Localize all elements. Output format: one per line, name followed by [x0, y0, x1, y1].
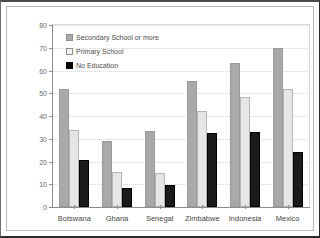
bar-ghana-none — [122, 188, 132, 207]
bar-mexico-none — [293, 152, 303, 207]
plot-area: 01020304050607080 BotswanaGhanaSenegalZi… — [52, 24, 310, 208]
legend-item-primary: Primary School — [66, 46, 159, 57]
bar-ghana-primary — [112, 172, 122, 207]
bar-senegal-secondary — [145, 131, 155, 207]
bar-senegal-primary — [155, 173, 165, 207]
y-axis-tick-mark — [49, 139, 52, 140]
y-axis-tick-label: 0 — [43, 204, 47, 211]
gridline-50 — [53, 93, 310, 94]
y-axis-tick-mark — [49, 116, 52, 117]
legend-label-primary: Primary School — [76, 48, 123, 55]
x-axis-label-ghana: Ghana — [106, 215, 129, 223]
bar-botswana-primary — [69, 130, 79, 207]
y-axis-tick-label: 20 — [39, 158, 47, 165]
bar-zimbabwe-secondary — [187, 81, 197, 207]
bar-botswana-secondary — [59, 89, 69, 207]
legend-swatch-no-education-icon — [66, 62, 73, 69]
bar-indonesia-none — [250, 132, 260, 207]
bar-ghana-secondary — [102, 141, 112, 207]
y-axis-tick-label: 40 — [39, 113, 47, 120]
x-axis-label-mexico: Mexico — [276, 215, 300, 223]
x-axis-tick-mark — [245, 205, 246, 209]
y-axis-tick-label: 10 — [39, 181, 47, 188]
y-axis-tick-label: 80 — [39, 22, 47, 29]
bar-zimbabwe-primary — [197, 111, 207, 207]
x-axis-tick-mark — [117, 205, 118, 209]
bar-indonesia-primary — [240, 97, 250, 207]
chart-figure: 01020304050607080 BotswanaGhanaSenegalZi… — [0, 0, 320, 238]
y-axis-tick-mark — [49, 71, 52, 72]
legend-label-secondary: Secondary School or more — [76, 34, 159, 41]
bar-botswana-none — [79, 160, 89, 207]
gridline-0 — [53, 207, 310, 208]
gridline-40 — [53, 116, 310, 117]
y-axis-tick-label: 30 — [39, 135, 47, 142]
legend-item-no-education: No Education — [66, 60, 159, 71]
legend-item-secondary: Secondary School or more — [66, 32, 159, 43]
x-axis-tick-mark — [74, 205, 75, 209]
gridline-20 — [53, 162, 310, 163]
x-axis-tick-mark — [288, 205, 289, 209]
gridline-10 — [53, 184, 310, 185]
x-axis-label-indonesia: Indonesia — [229, 215, 262, 223]
bar-mexico-secondary — [273, 48, 283, 207]
x-axis-tick-mark — [160, 205, 161, 209]
bar-group — [273, 25, 303, 207]
figure-inner-border: 01020304050607080 BotswanaGhanaSenegalZi… — [6, 6, 314, 231]
y-axis-tick-label: 70 — [39, 44, 47, 51]
legend-label-no-education: No Education — [76, 62, 118, 69]
bar-mexico-primary — [283, 89, 293, 207]
x-axis-label-zimbabwe: Zimbabwe — [185, 215, 220, 223]
bar-indonesia-secondary — [230, 63, 240, 207]
y-axis-tick-mark — [49, 48, 52, 49]
bar-senegal-none — [165, 185, 175, 207]
y-axis-tick-label: 60 — [39, 67, 47, 74]
x-axis-tick-mark — [202, 205, 203, 209]
bar-group — [187, 25, 217, 207]
gridline-80 — [53, 25, 310, 26]
y-axis-tick-mark — [49, 25, 52, 26]
gridline-30 — [53, 139, 310, 140]
bar-group — [230, 25, 260, 207]
y-axis-tick-mark — [49, 162, 52, 163]
y-axis-tick-mark — [49, 93, 52, 94]
legend-swatch-primary-icon — [66, 48, 73, 55]
y-axis-tick-mark — [49, 207, 52, 208]
x-axis-label-botswana: Botswana — [58, 215, 91, 223]
legend-swatch-secondary-icon — [66, 34, 73, 41]
bar-zimbabwe-none — [207, 133, 217, 207]
chart-legend: Secondary School or more Primary School … — [66, 32, 159, 74]
x-axis-label-senegal: Senegal — [146, 215, 174, 223]
y-axis-tick-label: 50 — [39, 90, 47, 97]
y-axis-tick-mark — [49, 184, 52, 185]
